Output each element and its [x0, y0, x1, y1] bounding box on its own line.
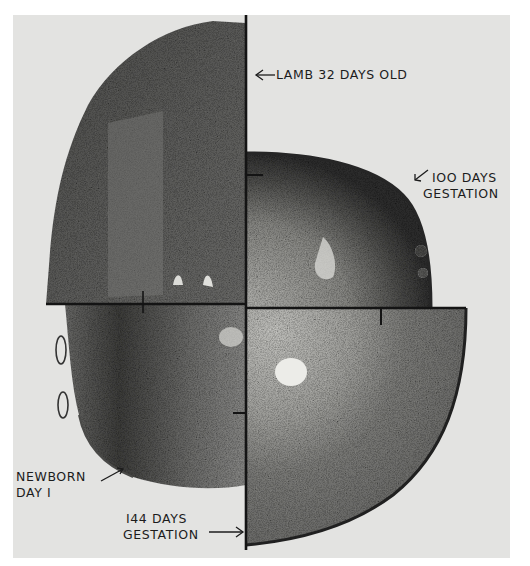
section-lamb-32-days — [46, 21, 246, 304]
label-newborn-day-1: NEWBORN DAY I — [16, 469, 86, 501]
section-144-days-gestation — [246, 308, 466, 545]
label-144-days-gestation: I44 DAYS GESTATION — [123, 511, 199, 543]
arrow-left-icon — [256, 70, 275, 80]
label-lamb-32-days: LAMB 32 DAYS OLD — [276, 67, 408, 83]
section-100-days-gestation — [246, 153, 431, 308]
section-newborn-day-1 — [56, 304, 246, 488]
label-100-days-gestation: IOO DAYS GESTATION — [423, 170, 499, 202]
figure-plate: LAMB 32 DAYS OLD IOO DAYS GESTATION NEWB… — [13, 15, 510, 558]
arrow-right-icon — [209, 527, 243, 537]
tissue-sections-illustration — [13, 15, 510, 558]
